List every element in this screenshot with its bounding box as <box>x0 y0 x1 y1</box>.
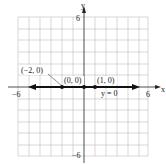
leader-line <box>48 74 62 86</box>
x-axis-label: x <box>161 85 165 94</box>
y-max-tick: 6 <box>76 14 80 23</box>
y-min-tick: −6 <box>72 151 81 160</box>
point-label-neg2-0: (−2, 0) <box>21 66 43 75</box>
point-neg2-0 <box>60 85 64 89</box>
point-0-0 <box>82 85 86 89</box>
point-label-0-0: (0, 0) <box>64 76 82 85</box>
x-min-tick: −6 <box>12 90 21 99</box>
equation-label: y = 0 <box>101 89 118 98</box>
coordinate-plane: y x −6 6 6 −6 (−2, 0) (0, 0) (1, 0) y = … <box>0 0 166 164</box>
x-max-tick: 6 <box>146 90 150 99</box>
point-label-1-0: (1, 0) <box>97 76 115 85</box>
y-axis-label: y <box>81 1 85 10</box>
point-1-0 <box>93 85 97 89</box>
